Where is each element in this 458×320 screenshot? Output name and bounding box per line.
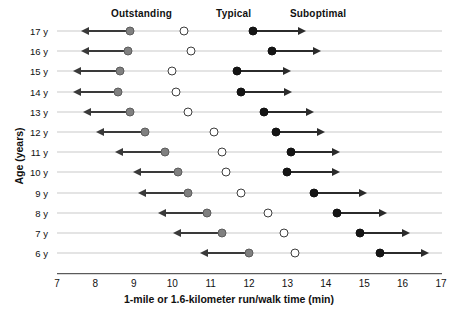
x-tick-label: 11 xyxy=(205,278,215,289)
arrow-head-icon xyxy=(283,67,291,75)
arrow-head-icon xyxy=(359,189,367,197)
category-header-suboptimal: Suboptimal xyxy=(290,8,346,19)
arrow-head-icon xyxy=(284,88,292,96)
data-point-out xyxy=(202,208,211,217)
range-arrow-sub xyxy=(264,111,306,113)
arrow-head-icon xyxy=(115,148,123,156)
data-point-out xyxy=(160,148,169,157)
arrow-head-icon xyxy=(73,88,81,96)
arrow-head-icon xyxy=(200,249,208,257)
y-axis-title: Age (years) xyxy=(13,101,25,211)
range-arrow-sub xyxy=(291,151,333,153)
arrow-head-icon xyxy=(96,128,104,136)
x-tick-label: 9 xyxy=(131,278,137,289)
range-arrow-out xyxy=(88,30,130,32)
arrow-head-icon xyxy=(317,128,325,136)
data-point-sub xyxy=(283,168,292,177)
data-point-typ xyxy=(183,107,192,116)
data-point-sub xyxy=(268,47,277,56)
arrow-head-icon xyxy=(332,168,340,176)
data-point-sub xyxy=(260,107,269,116)
range-arrow-out xyxy=(88,50,128,52)
arrow-head-icon xyxy=(421,249,429,257)
data-point-out xyxy=(183,188,192,197)
range-arrow-sub xyxy=(360,232,402,234)
data-point-typ xyxy=(168,67,177,76)
data-point-out xyxy=(114,87,123,96)
data-point-typ xyxy=(179,27,188,36)
y-tick-label: 14 y xyxy=(14,86,48,97)
arrow-head-icon xyxy=(306,108,314,116)
x-axis-title: 1-mile or 1.6-kilometer run/walk time (m… xyxy=(0,293,458,305)
y-tick: 7 y xyxy=(14,233,48,244)
arrow-head-icon xyxy=(379,209,387,217)
data-point-out xyxy=(141,128,150,137)
data-point-typ xyxy=(279,229,288,238)
arrow-head-icon xyxy=(332,148,340,156)
data-point-typ xyxy=(237,188,246,197)
arrow-head-icon xyxy=(81,27,89,35)
x-tick-label: 10 xyxy=(167,278,178,289)
data-point-typ xyxy=(264,208,273,217)
data-point-sub xyxy=(287,148,296,157)
y-tick: 16 y xyxy=(14,51,48,62)
data-point-sub xyxy=(271,128,280,137)
range-arrow-sub xyxy=(276,131,318,133)
arrow-head-icon xyxy=(83,108,91,116)
data-point-out xyxy=(124,47,133,56)
range-arrow-out xyxy=(103,131,145,133)
row-gridline xyxy=(57,172,442,173)
x-tick-label: 12 xyxy=(243,278,254,289)
category-header-typical: Typical xyxy=(216,8,251,19)
arrow-head-icon xyxy=(138,189,146,197)
data-point-sub xyxy=(248,27,257,36)
y-tick: 6 y xyxy=(14,253,48,264)
data-point-typ xyxy=(291,249,300,258)
data-point-sub xyxy=(233,67,242,76)
y-tick-label: 17 y xyxy=(14,26,48,37)
range-arrow-sub xyxy=(272,50,314,52)
x-tick-label: 17 xyxy=(435,278,446,289)
x-tick-label: 8 xyxy=(93,278,99,289)
range-arrow-sub xyxy=(241,91,285,93)
range-arrow-out xyxy=(80,91,118,93)
data-point-out xyxy=(173,168,182,177)
range-arrow-sub xyxy=(314,192,360,194)
data-point-typ xyxy=(221,168,230,177)
range-arrow-out xyxy=(140,171,178,173)
y-tick-label: 15 y xyxy=(14,66,48,77)
range-arrow-out xyxy=(165,212,207,214)
x-axis-line xyxy=(57,273,442,274)
arrow-head-icon xyxy=(173,229,181,237)
y-tick-label: 16 y xyxy=(14,46,48,57)
data-point-typ xyxy=(218,148,227,157)
y-tick: 17 y xyxy=(14,31,48,42)
range-arrow-sub xyxy=(380,252,422,254)
data-point-sub xyxy=(310,188,319,197)
range-arrow-out xyxy=(145,192,187,194)
data-point-out xyxy=(245,249,254,258)
data-point-out xyxy=(116,67,125,76)
range-arrow-sub xyxy=(337,212,379,214)
x-tick-label: 7 xyxy=(54,278,60,289)
x-tick-label: 14 xyxy=(320,278,331,289)
arrow-head-icon xyxy=(73,67,81,75)
y-tick-label: 7 y xyxy=(14,228,48,239)
range-arrow-out xyxy=(90,111,130,113)
arrow-head-icon xyxy=(81,47,89,55)
data-point-sub xyxy=(237,87,246,96)
arrow-head-icon xyxy=(313,47,321,55)
arrow-head-icon xyxy=(298,27,306,35)
data-point-sub xyxy=(375,249,384,258)
arrow-head-icon xyxy=(133,168,141,176)
range-arrow-out xyxy=(80,70,120,72)
range-arrow-sub xyxy=(237,70,283,72)
row-gridline xyxy=(57,192,442,193)
chart-canvas: Outstanding Typical Suboptimal 17 y16 y1… xyxy=(0,0,458,320)
range-arrow-out xyxy=(207,252,249,254)
x-tick-label: 16 xyxy=(397,278,408,289)
data-point-sub xyxy=(356,229,365,238)
data-point-out xyxy=(218,229,227,238)
data-point-typ xyxy=(210,128,219,137)
category-header-outstanding: Outstanding xyxy=(111,8,172,19)
